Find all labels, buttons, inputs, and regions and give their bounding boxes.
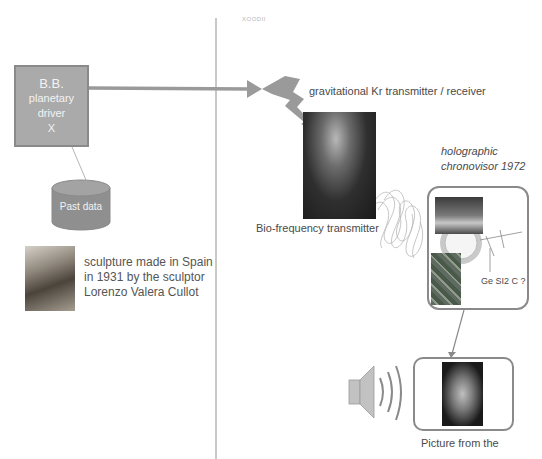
caption-line: sculpture made in Spain (84, 255, 213, 270)
driver-title: B.B. (16, 76, 87, 91)
chronovisor-picture-connector (452, 310, 464, 354)
transmitter-label: gravitational Kr transmitter / receiver (309, 85, 486, 97)
circuit-board-image (431, 253, 461, 305)
driver-line4: X (16, 121, 87, 136)
chronovisor-title: holographic chronovisor 1972 (441, 144, 525, 174)
antenna-label: Ge SI2 C ? (481, 276, 526, 286)
caption-line: Lorenzo Valera Cullot (84, 285, 213, 300)
driver-line3: driver (16, 106, 87, 121)
speaker-icon (349, 366, 401, 420)
planetary-driver-box: B.B. planetary driver X (14, 65, 89, 147)
face-picture-image (442, 362, 483, 426)
hand-hologram-image (435, 197, 483, 234)
caption-line: in 1931 by the sculptor (84, 270, 213, 285)
driver-line2: planetary (16, 91, 87, 106)
main-arrow-shaft (89, 88, 250, 89)
picture-label: Picture from the (421, 437, 499, 449)
database-label: Past data (52, 201, 110, 212)
chronovisor-title-line: chronovisor 1972 (441, 159, 525, 174)
chronovisor-title-line: holographic (441, 144, 525, 159)
brain-head-image (303, 112, 376, 219)
sculpture-caption: sculpture made in Spain in 1931 by the s… (84, 255, 213, 300)
driver-db-connector (72, 147, 86, 180)
bio-frequency-label: Bio-frequency transmitter (256, 222, 379, 234)
main-arrow-head (247, 80, 262, 98)
sculpture-image (25, 246, 75, 311)
